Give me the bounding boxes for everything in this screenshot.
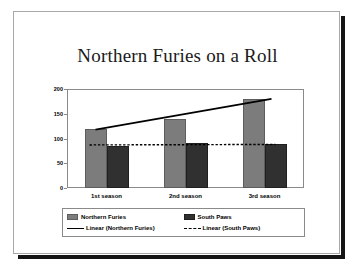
- legend-label: Linear (South Paws): [203, 225, 261, 231]
- x-tick-label: 2nd season: [146, 193, 226, 199]
- trendline-linear-northern-furies-: [96, 99, 272, 130]
- legend-label: Northern Furies: [81, 214, 126, 220]
- legend-item-linear-northern-furies: Linear (Northern Furies): [67, 225, 184, 231]
- y-tick-label: 150: [33, 111, 63, 117]
- y-tick-label: 0: [33, 185, 63, 191]
- chart-plot-region: 050100150200: [67, 89, 304, 188]
- slide-shadow-right: [341, 16, 345, 259]
- legend-label: Linear (Northern Furies): [86, 225, 155, 231]
- legend-item-linear-south-paws: Linear (South Paws): [184, 225, 301, 231]
- y-tick-mark: [64, 188, 67, 189]
- legend-line-dotted-icon: [184, 225, 201, 231]
- legend-item-northern-furies: Northern Furies: [67, 214, 184, 220]
- legend-row: Linear (Northern Furies) Linear (South P…: [67, 222, 300, 233]
- y-tick-label: 200: [33, 86, 63, 92]
- x-tick-label: 1st season: [67, 193, 147, 199]
- slide-shadow-bottom: [18, 255, 345, 259]
- chart-title: Northern Furies on a Roll: [14, 45, 341, 67]
- trendlines-layer: [67, 89, 304, 188]
- legend-line-solid-icon: [67, 225, 84, 231]
- legend-row: Northern Furies South Paws: [67, 211, 300, 222]
- legend-swatch-south-paws: [184, 214, 195, 220]
- legend-item-south-paws: South Paws: [184, 214, 301, 220]
- chart-legend: Northern Furies South Paws Linear (North…: [62, 208, 305, 237]
- slide-frame: Northern Furies on a Roll 050100150200 1…: [13, 11, 340, 254]
- legend-label: South Paws: [198, 214, 232, 220]
- legend-swatch-northern-furies: [67, 214, 78, 220]
- x-tick-label: 3rd season: [225, 193, 305, 199]
- y-tick-label: 100: [33, 136, 63, 142]
- y-tick-label: 50: [33, 160, 63, 166]
